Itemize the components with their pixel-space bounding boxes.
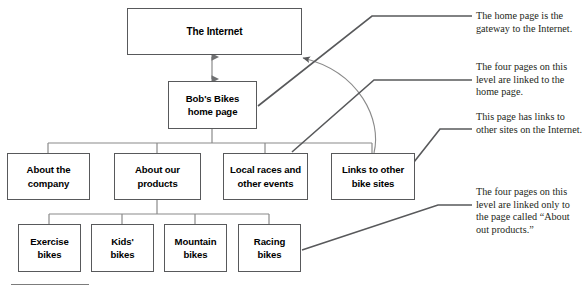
footer-rule [11,284,89,285]
node-racing-bikes[interactable]: Racingbikes [238,224,301,272]
curve-links-to-internet [303,58,376,153]
node-exercise-bikes-label: Exercisebikes [30,235,69,262]
node-about-our-products-label: About ourproducts [135,163,180,190]
leader-line-3 [414,129,472,162]
node-racing-bikes-label: Racingbikes [254,235,285,262]
node-links-to-other-bike-sites-label: Links to otherbike sites [342,163,404,190]
node-home-page-label: Bob's Bikeshome page [186,92,239,119]
node-mountain-bikes-label: Mountainbikes [175,235,217,262]
leader-line-4 [302,205,472,250]
node-the-internet[interactable]: The Internet [127,8,302,55]
leader-line-2 [292,80,472,152]
node-kids-bikes-label: Kids'bikes [110,235,134,262]
node-about-the-company-label: About thecompany [27,163,71,190]
annotation-level2-linked-to-home: The four pages on this level are linked … [476,61,584,99]
node-about-our-products[interactable]: About ourproducts [114,153,201,200]
annotation-links-other-sites: This page has links to other sites on th… [476,111,584,136]
node-the-internet-label: The Internet [186,25,242,39]
node-local-races[interactable]: Local races andother events [223,153,308,200]
node-about-the-company[interactable]: About thecompany [7,153,90,200]
node-local-races-label: Local races andother events [230,163,301,190]
annotation-level3-linked-to-products: The four pages on this level are linked … [476,186,584,236]
annotation-home-page-gateway: The home page is the gateway to the Inte… [476,10,584,35]
connector-products-to-level3 [49,200,269,224]
node-links-to-other-bike-sites[interactable]: Links to otherbike sites [331,153,415,200]
node-home-page[interactable]: Bob's Bikeshome page [168,81,257,129]
node-mountain-bikes[interactable]: Mountainbikes [164,224,227,272]
connector-home-to-level2 [48,129,372,153]
node-exercise-bikes[interactable]: Exercisebikes [18,224,81,272]
node-kids-bikes[interactable]: Kids'bikes [91,224,154,272]
